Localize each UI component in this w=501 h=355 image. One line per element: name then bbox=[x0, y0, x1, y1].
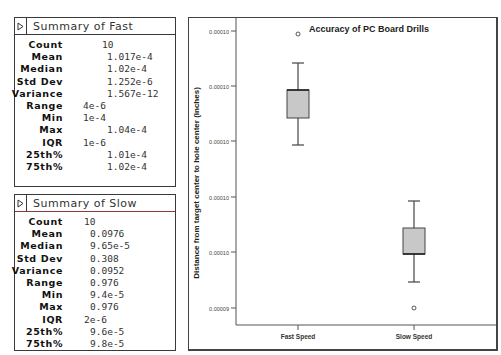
y-tick-label: 0.00010 bbox=[209, 195, 229, 201]
stat-value: 1.04e-4 bbox=[107, 124, 147, 136]
stat-label: Min bbox=[42, 289, 63, 301]
stat-label: Range bbox=[26, 277, 63, 289]
stat-row: 25th%9.6e-5 bbox=[15, 326, 175, 338]
stat-label: IQR bbox=[42, 314, 63, 326]
iqr-box bbox=[403, 228, 425, 254]
stat-value: 0.0976 bbox=[90, 228, 124, 240]
stat-value: 10 bbox=[84, 216, 95, 228]
summary-fast-title: Summary of Fast bbox=[33, 20, 133, 33]
stat-row: Mean0.0976 bbox=[15, 228, 175, 240]
y-tick-label: 0.00009 bbox=[209, 306, 229, 312]
summary-slow-title: Summary of Slow bbox=[33, 197, 137, 210]
stat-label: 75th% bbox=[26, 161, 63, 173]
stat-value: 0.0952 bbox=[90, 265, 124, 277]
stat-label: Variance bbox=[12, 265, 63, 277]
stat-value: 9.4e-5 bbox=[90, 289, 124, 301]
box-fast-speed bbox=[287, 32, 309, 145]
stat-value: 1.017e-4 bbox=[107, 51, 153, 63]
stat-label: Mean bbox=[32, 51, 63, 63]
y-tick-label: 0.00010 bbox=[209, 84, 229, 90]
stat-label: Count bbox=[28, 39, 63, 51]
x-axis-ticks: Fast SpeedSlow Speed bbox=[281, 325, 433, 341]
stat-value: 9.8e-5 bbox=[90, 338, 124, 350]
stat-row: Std Dev1.252e-6 bbox=[15, 76, 175, 88]
stat-label: Mean bbox=[32, 228, 63, 240]
stat-row: Min9.4e-5 bbox=[15, 289, 175, 301]
y-tick-label: 0.00010 bbox=[209, 250, 229, 256]
y-tick-label: 0.00010 bbox=[209, 139, 229, 145]
x-tick-label: Fast Speed bbox=[281, 333, 316, 341]
stat-label: Variance bbox=[12, 88, 63, 100]
stat-row: Max1.04e-4 bbox=[15, 124, 175, 136]
box-slow-speed bbox=[403, 201, 425, 310]
stat-row: Min1e-4 bbox=[15, 112, 175, 124]
y-axis-ticks: 0.000100.000100.000100.000100.000100.000… bbox=[209, 29, 236, 312]
stat-row: Max0.976 bbox=[15, 301, 175, 313]
summary-slow-panel: Summary of Slow Count10Mean0.0976Median9… bbox=[14, 194, 176, 351]
stat-label: Std Dev bbox=[17, 76, 63, 88]
stat-value: 0.976 bbox=[90, 301, 119, 313]
stat-row: Range4e-6 bbox=[15, 100, 175, 112]
box-plots bbox=[287, 32, 425, 310]
stat-label: Median bbox=[20, 240, 63, 252]
summary-slow-header: Summary of Slow bbox=[15, 195, 175, 212]
iqr-box bbox=[287, 90, 309, 118]
stat-row: Count10 bbox=[15, 39, 175, 51]
stat-row: Median1.02e-4 bbox=[15, 63, 175, 75]
stat-row: Median9.65e-5 bbox=[15, 240, 175, 252]
stat-row: IQR2e-6 bbox=[15, 314, 175, 326]
stat-row: IQR1e-6 bbox=[15, 137, 175, 149]
stat-value: 1e-4 bbox=[83, 112, 106, 124]
stat-value: 9.6e-5 bbox=[90, 326, 124, 338]
stat-value: 2e-6 bbox=[84, 314, 107, 326]
stat-label: Max bbox=[39, 301, 63, 313]
stat-row: Variance1.567e-12 bbox=[15, 88, 175, 100]
stat-value: 1.01e-4 bbox=[107, 149, 147, 161]
stat-label: Min bbox=[42, 112, 63, 124]
stat-value: 9.65e-5 bbox=[90, 240, 130, 252]
stat-row: Range0.976 bbox=[15, 277, 175, 289]
stat-value: 1.252e-6 bbox=[107, 76, 153, 88]
stat-value: 1e-6 bbox=[83, 137, 106, 149]
stat-value: 4e-6 bbox=[83, 100, 106, 112]
x-tick-label: Slow Speed bbox=[396, 333, 433, 341]
stat-value: 10 bbox=[102, 39, 113, 51]
y-tick-label: 0.00010 bbox=[209, 29, 229, 35]
stat-label: Count bbox=[28, 216, 63, 228]
stat-label: Max bbox=[39, 124, 63, 136]
stat-value: 1.02e-4 bbox=[107, 63, 147, 75]
stat-row: 75th%1.02e-4 bbox=[15, 161, 175, 173]
y-axis-label: Distance from target center to hole cent… bbox=[192, 87, 201, 279]
stat-value: 1.02e-4 bbox=[107, 161, 147, 173]
chart-title: Accuracy of PC Board Drills bbox=[309, 24, 429, 34]
stat-label: 25th% bbox=[26, 149, 63, 161]
summary-fast-header: Summary of Fast bbox=[15, 18, 175, 35]
stat-label: Range bbox=[26, 100, 63, 112]
stat-value: 0.976 bbox=[90, 277, 119, 289]
stat-value: 1.567e-12 bbox=[107, 88, 158, 100]
disclosure-triangle-icon[interactable] bbox=[15, 195, 27, 211]
boxplot-chart: Accuracy of PC Board Drills Distance fro… bbox=[189, 18, 496, 349]
stat-row: Variance0.0952 bbox=[15, 265, 175, 277]
stat-label: Median bbox=[20, 63, 63, 75]
stat-label: 75th% bbox=[26, 338, 63, 350]
stat-row: Std Dev0.308 bbox=[15, 253, 175, 265]
stat-label: IQR bbox=[42, 137, 63, 149]
stat-label: Std Dev bbox=[17, 253, 63, 265]
stat-value: 0.308 bbox=[90, 253, 119, 265]
summary-fast-panel: Summary of Fast Count10Mean1.017e-4Media… bbox=[14, 17, 176, 187]
stat-row: Mean1.017e-4 bbox=[15, 51, 175, 63]
stat-row: 75th%9.8e-5 bbox=[15, 338, 175, 350]
boxplot-chart-panel: Accuracy of PC Board Drills Distance fro… bbox=[188, 17, 498, 351]
outlier-marker bbox=[412, 306, 416, 310]
stat-row: Count10 bbox=[15, 216, 175, 228]
stat-label: 25th% bbox=[26, 326, 63, 338]
outlier-marker bbox=[296, 32, 300, 36]
disclosure-triangle-icon[interactable] bbox=[15, 18, 27, 34]
stat-row: 25th%1.01e-4 bbox=[15, 149, 175, 161]
